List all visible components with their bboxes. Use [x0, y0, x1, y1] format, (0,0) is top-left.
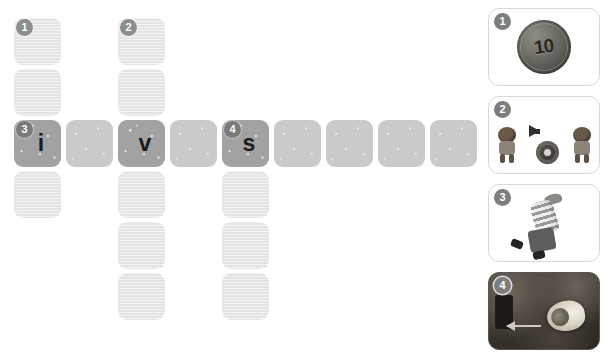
caveman-leg: [575, 154, 580, 163]
clue-number-badge: 3: [494, 189, 511, 206]
caveman-body: [499, 141, 515, 155]
grid-cell-c8r3[interactable]: [378, 120, 425, 167]
worksheet-page: 13i2v4s 1 10 2: [0, 0, 608, 357]
arrow-icon: [529, 125, 540, 137]
clue-card-3[interactable]: 3: [488, 184, 600, 262]
grid-cell-c5r4[interactable]: [222, 171, 269, 218]
caveman-leg: [509, 154, 514, 163]
grid-cell-c3r2[interactable]: [118, 69, 165, 116]
cell-letter: s: [222, 120, 269, 167]
grid-cell-c1r2[interactable]: [14, 69, 61, 116]
coin-value-label: 10: [533, 35, 555, 59]
grid-cell-c3r4[interactable]: [118, 171, 165, 218]
clue-card-2[interactable]: 2: [488, 96, 600, 174]
clue-card-1[interactable]: 1 10: [488, 8, 600, 86]
cell-number-badge: 2: [120, 19, 137, 36]
caveman-figure-right: [571, 127, 593, 163]
grid-cell-c3r5[interactable]: [118, 222, 165, 269]
grid-cell-c7r3[interactable]: [326, 120, 373, 167]
arrow-icon: [507, 325, 541, 327]
grid-cell-c5r6[interactable]: [222, 273, 269, 320]
grid-cell-c6r3[interactable]: [274, 120, 321, 167]
caveman-leg: [500, 154, 505, 163]
child-shoe: [510, 238, 524, 250]
clue-number-badge: 1: [494, 13, 511, 30]
crossword-grid: 13i2v4s: [0, 0, 480, 357]
grid-cell-c5r5[interactable]: [222, 222, 269, 269]
grid-cell-c3r6[interactable]: [118, 273, 165, 320]
caveman-leg: [584, 154, 589, 163]
caveman-figure-left: [496, 127, 518, 163]
grid-cell-c3r3[interactable]: v: [118, 120, 165, 167]
shell-icon: [545, 298, 588, 334]
grid-cell-c5r3[interactable]: 4s: [222, 120, 269, 167]
grid-cell-c1r1[interactable]: 1: [14, 18, 61, 65]
child-shoe: [532, 250, 546, 261]
clue-card-4[interactable]: 4: [488, 272, 600, 350]
grid-cell-c9r3[interactable]: [430, 120, 477, 167]
clue-number-badge: 2: [494, 101, 511, 118]
cell-letter: v: [118, 120, 165, 167]
clue-number-badge: 4: [494, 277, 511, 294]
cell-number-badge: 1: [16, 19, 33, 36]
grid-cell-c3r1[interactable]: 2: [118, 18, 165, 65]
clue-card-list: 1 10 2: [488, 8, 604, 357]
grid-cell-c1r4[interactable]: [14, 171, 61, 218]
grid-cell-c2r3[interactable]: [66, 120, 113, 167]
coin-shape: 10: [517, 20, 571, 74]
grid-cell-c1r3[interactable]: 3i: [14, 120, 61, 167]
cell-letter: i: [14, 120, 61, 167]
grid-cell-c4r3[interactable]: [170, 120, 217, 167]
caveman-body: [574, 141, 590, 155]
wheel-icon: [536, 141, 559, 164]
